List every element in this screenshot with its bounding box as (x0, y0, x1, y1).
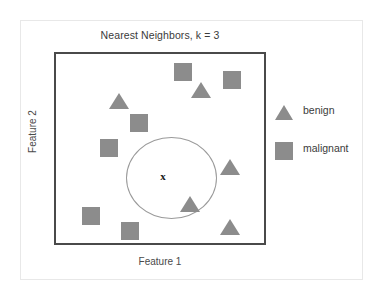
x-axis-label: Feature 1 (54, 256, 266, 267)
data-point-benign (191, 82, 211, 98)
neighborhood-circle (126, 137, 217, 219)
screenshot-root: Nearest Neighbors, k = 3 x Feature 1 Fea… (0, 0, 383, 300)
query-point-marker: x (156, 169, 170, 183)
data-point-benign (109, 93, 129, 109)
data-point-benign (180, 196, 200, 212)
data-point-malignant (100, 139, 118, 157)
legend-item-malignant: malignant (275, 138, 365, 176)
data-point-malignant (130, 114, 148, 132)
page-title: Nearest Neighbors, k = 3 (54, 29, 266, 41)
triangle-marker-icon (275, 105, 293, 120)
legend-label: malignant (303, 142, 349, 154)
plot-area: x (54, 52, 266, 245)
data-point-malignant (223, 71, 241, 89)
data-point-benign (220, 219, 240, 235)
data-point-benign (220, 159, 240, 175)
data-point-malignant (174, 63, 192, 81)
data-point-malignant (121, 222, 139, 240)
legend: benignmalignant (275, 100, 365, 176)
legend-label: benign (303, 104, 335, 116)
data-point-malignant (82, 207, 100, 225)
y-axis-label: Feature 2 (27, 87, 38, 177)
square-marker-icon (275, 142, 293, 160)
legend-item-benign: benign (275, 100, 365, 138)
